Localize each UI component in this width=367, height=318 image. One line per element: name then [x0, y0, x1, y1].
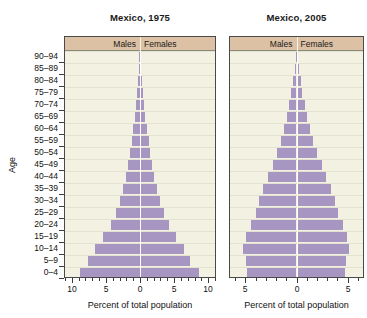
- population-pyramid-figure: Age 0–45–910–1415–1920–2425–2930–3435–39…: [0, 0, 367, 318]
- y-tick-label: 15–19: [18, 231, 58, 241]
- x-tick-minor: [147, 278, 148, 281]
- chart-panel-1975: Males Females: [64, 36, 216, 278]
- x-tick-label: 0: [295, 284, 300, 294]
- bar-female: [297, 196, 336, 207]
- x-tick-minor: [181, 278, 182, 281]
- center-axis-line: [297, 51, 298, 278]
- y-tick-label: 50–54: [18, 147, 58, 157]
- y-tick-label: 90–94: [18, 51, 58, 61]
- x-tick-minor: [154, 278, 155, 281]
- center-axis-line-header: [297, 37, 298, 51]
- y-tick-label: 0–4: [18, 267, 58, 277]
- bar-male: [289, 100, 296, 111]
- bar-female: [140, 148, 150, 159]
- x-tick-minor: [195, 278, 196, 281]
- x-tick-minor: [113, 278, 114, 281]
- bar-male: [80, 268, 140, 278]
- y-tick-label: 65–69: [18, 111, 58, 121]
- x-tick-major: [174, 278, 175, 283]
- bar-female: [140, 136, 149, 147]
- x-tick-minor: [65, 278, 66, 281]
- bar-male: [287, 112, 297, 123]
- bar-female: [297, 148, 317, 159]
- x-tick-minor: [133, 278, 134, 281]
- bar-female: [297, 244, 349, 255]
- x-tick-major: [72, 278, 73, 283]
- bar-female: [297, 136, 313, 147]
- bar-female: [297, 256, 346, 267]
- bar-male: [277, 148, 296, 159]
- panel-title-2005: Mexico, 2005: [229, 12, 364, 23]
- bar-male: [256, 208, 297, 219]
- x-tick-label: 5: [243, 284, 248, 294]
- bar-male: [123, 184, 140, 195]
- legend-males-2005: Males: [270, 39, 293, 49]
- panel-title-1975: Mexico, 1975: [64, 12, 216, 23]
- x-tick-minor: [188, 278, 189, 281]
- bar-male: [132, 136, 140, 147]
- y-tick-label: 60–64: [18, 123, 58, 133]
- x-tick-label: 5: [104, 284, 109, 294]
- legend-females-2005: Females: [301, 39, 334, 49]
- center-axis-line: [140, 51, 141, 278]
- bar-male: [88, 256, 140, 267]
- bar-female: [297, 172, 327, 183]
- bar-female: [297, 112, 308, 123]
- bar-female: [297, 184, 332, 195]
- x-tick-minor: [317, 278, 318, 281]
- bar-male: [281, 136, 296, 147]
- bar-male: [263, 184, 297, 195]
- bar-male: [130, 148, 140, 159]
- plot-area-1975: [65, 51, 215, 278]
- bar-female: [140, 220, 169, 231]
- x-tick-minor: [337, 278, 338, 281]
- bar-male: [268, 172, 297, 183]
- bar-female: [297, 160, 322, 171]
- x-tick-minor: [256, 278, 257, 281]
- x-tick-minor: [99, 278, 100, 281]
- center-axis-line-header: [140, 37, 141, 51]
- x-tick-minor: [85, 278, 86, 281]
- y-tick-label: 5–9: [18, 255, 58, 265]
- x-tick-minor: [286, 278, 287, 281]
- y-tick-label: 45–49: [18, 159, 58, 169]
- x-tick-minor: [307, 278, 308, 281]
- x-axis-caption-2005: Percent of total population: [215, 300, 367, 310]
- chart-panel-2005: Males Females: [229, 36, 364, 278]
- x-tick-major: [140, 278, 141, 283]
- x-tick-minor: [167, 278, 168, 281]
- x-axis-caption-1975: Percent of total population: [50, 300, 230, 310]
- x-tick-minor: [358, 278, 359, 281]
- bar-female: [297, 232, 347, 243]
- bar-male: [259, 196, 297, 207]
- bar-female: [140, 184, 157, 195]
- x-tick-minor: [215, 278, 216, 281]
- bar-female: [140, 160, 152, 171]
- bar-female: [140, 172, 154, 183]
- bar-male: [103, 232, 140, 243]
- y-tick-label: 75–79: [18, 87, 58, 97]
- legend-females-1975: Females: [144, 39, 177, 49]
- legend-band-2005: Males Females: [230, 37, 363, 51]
- y-tick-label: 55–59: [18, 135, 58, 145]
- x-tick-major: [208, 278, 209, 283]
- bar-male: [284, 124, 296, 135]
- x-tick-minor: [266, 278, 267, 281]
- x-tick-major: [245, 278, 246, 283]
- y-tick-label: 20–24: [18, 219, 58, 229]
- x-tick-minor: [276, 278, 277, 281]
- bar-male: [95, 244, 140, 255]
- x-tick-major: [106, 278, 107, 283]
- x-tick-label: 5: [346, 284, 351, 294]
- bar-male: [126, 172, 140, 183]
- bar-male: [246, 232, 296, 243]
- bar-female: [140, 244, 184, 255]
- bar-female: [297, 100, 305, 111]
- y-tick-label: 35–39: [18, 183, 58, 193]
- bar-female: [140, 256, 190, 267]
- bar-female: [140, 268, 199, 278]
- plot-area-2005: [230, 51, 363, 278]
- bar-male: [251, 220, 296, 231]
- x-tick-minor: [79, 278, 80, 281]
- bar-female: [297, 220, 343, 231]
